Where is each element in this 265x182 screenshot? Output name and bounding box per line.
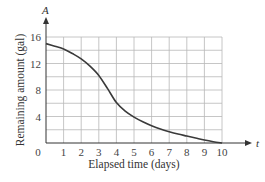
x-axis-symbol: t	[256, 137, 260, 149]
x-tick-label: 8	[184, 146, 190, 158]
y-tick-label: 4	[36, 111, 42, 123]
chart: A t 012345678910 481216 Elapsed time (da…	[0, 0, 265, 182]
y-tick-labels: 481216	[30, 31, 42, 123]
x-tick-label: 5	[131, 146, 137, 158]
y-tick-label: 16	[30, 31, 42, 43]
x-tick-label: 10	[217, 146, 229, 158]
y-axis-symbol: A	[41, 4, 49, 16]
y-tick-label: 8	[36, 84, 42, 96]
x-tick-label: 7	[166, 146, 172, 158]
x-axis-arrow-icon	[245, 140, 252, 146]
x-tick-label: 9	[202, 146, 208, 158]
x-tick-label: 3	[96, 146, 102, 158]
x-tick-labels: 012345678910	[35, 146, 228, 158]
x-axis-label: Elapsed time (days)	[88, 158, 180, 171]
x-tick-label: 4	[114, 146, 120, 158]
x-tick-label: 2	[78, 146, 84, 158]
x-tick-label: 6	[149, 146, 155, 158]
y-axis-arrow-icon	[43, 17, 49, 24]
x-tick-label: 1	[61, 146, 67, 158]
x-tick-label: 0	[35, 146, 41, 158]
y-axis-label: Remaining amount (gal)	[14, 34, 27, 147]
y-tick-label: 12	[30, 58, 41, 70]
